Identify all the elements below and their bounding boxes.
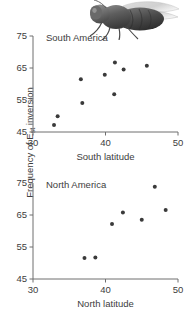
data-point (113, 61, 117, 65)
x-axis-title: North latitude (77, 298, 134, 309)
data-point (103, 73, 107, 77)
data-point (122, 68, 126, 72)
data-point (164, 208, 168, 212)
x-tick-label: 50 (173, 137, 184, 148)
y-tick-label: 75 (16, 177, 27, 188)
x-tick-label: 30 (28, 284, 39, 295)
data-point (80, 101, 84, 105)
chart-panel-north-america: North America45556575304050North latitud… (0, 175, 185, 317)
data-point (82, 256, 86, 260)
y-tick-label: 65 (16, 209, 27, 220)
x-tick-label: 50 (173, 284, 184, 295)
data-point (93, 256, 97, 260)
x-tick-label: 40 (100, 137, 111, 148)
y-tick-label: 45 (16, 126, 27, 137)
y-tick-label: 75 (16, 30, 27, 41)
scatter-plot-north-america: North America45556575304050North latitud… (0, 175, 185, 317)
data-point (153, 185, 157, 189)
data-point (145, 64, 149, 68)
x-axis-title: South latitude (76, 151, 134, 162)
data-point (56, 114, 60, 118)
data-point (121, 210, 125, 214)
y-tick-label: 65 (16, 62, 27, 73)
panel-title: South America (46, 32, 108, 43)
y-tick-label: 55 (16, 241, 27, 252)
figure-container: Frequency of Est inversion South America… (0, 0, 185, 317)
panel-title: North America (46, 179, 107, 190)
scatter-plot-south-america: South America45556575304050South latitud… (0, 28, 185, 168)
data-point (140, 218, 144, 222)
chart-panel-south-america: South America45556575304050South latitud… (0, 28, 185, 168)
data-point (79, 77, 83, 81)
y-tick-label: 55 (16, 94, 27, 105)
data-point (52, 123, 56, 127)
y-tick-label: 45 (16, 273, 27, 284)
data-point (112, 92, 116, 96)
data-point (110, 222, 114, 226)
x-tick-label: 40 (100, 284, 111, 295)
x-tick-label: 30 (28, 137, 39, 148)
